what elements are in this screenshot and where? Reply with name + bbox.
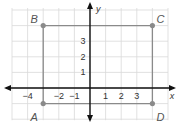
vertex-label-b: B <box>31 13 38 25</box>
vertex-label-a: A <box>30 111 38 123</box>
vertex-point-d <box>150 101 155 106</box>
y-tick-label: 3 <box>80 36 85 46</box>
coordinate-plane-figure: −4−2−1123123xy BCDA <box>0 0 179 123</box>
coordinate-plane: −4−2−1123123xy BCDA <box>0 0 179 123</box>
vertex-point-a <box>41 101 46 106</box>
x-axis-left-arrow-icon <box>4 85 11 91</box>
y-axis-down-arrow-icon <box>87 115 93 122</box>
x-tick-label: 3 <box>134 91 139 101</box>
x-tick-label: −4 <box>22 91 32 101</box>
y-axis-up-arrow-icon <box>87 2 93 9</box>
x-tick-label: −1 <box>69 91 79 101</box>
vertices: BCDA <box>30 13 165 123</box>
x-tick-label: 1 <box>103 91 108 101</box>
vertex-label-d: D <box>156 111 164 123</box>
y-tick-label: 1 <box>80 67 85 77</box>
x-tick-label: 2 <box>119 91 124 101</box>
vertex-point-c <box>150 23 155 28</box>
vertex-label-c: C <box>156 13 164 25</box>
vertex-point-b <box>41 23 46 28</box>
x-tick-label: −2 <box>54 91 64 101</box>
y-tick-label: 2 <box>80 52 85 62</box>
y-axis-label: y <box>95 4 101 14</box>
x-axis-label: x <box>169 91 175 101</box>
